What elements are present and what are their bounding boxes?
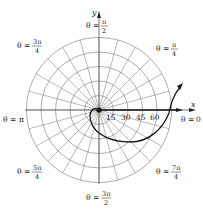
tick-30: 30 [121, 113, 131, 122]
svg-text:0: 0 [196, 115, 201, 124]
grid-spoke [99, 91, 169, 110]
tick-60: 60 [150, 113, 160, 122]
svg-text:5π: 5π [33, 164, 42, 172]
svg-text:θ =: θ = [17, 41, 30, 50]
svg-text:2: 2 [104, 199, 108, 207]
grid-spoke [63, 47, 99, 110]
svg-text:θ =: θ = [86, 193, 99, 202]
svg-text:π: π [172, 41, 177, 49]
grid-spoke [29, 110, 99, 129]
grid-spoke [36, 74, 99, 110]
svg-text:2: 2 [102, 27, 106, 35]
grid-spoke [80, 40, 99, 110]
svg-text:4: 4 [35, 47, 39, 55]
svg-text:θ =: θ = [86, 21, 99, 30]
svg-text:4: 4 [174, 173, 178, 181]
svg-text:θ =: θ = [156, 167, 169, 176]
tick-15: 15 [106, 113, 116, 122]
grid-spoke [99, 40, 118, 110]
svg-text:π: π [19, 115, 24, 124]
grid-spoke [48, 59, 99, 110]
svg-text:θ =: θ = [3, 115, 16, 124]
grid-spoke [99, 59, 150, 110]
svg-text:θ =: θ = [156, 44, 169, 53]
grid-spoke [99, 47, 135, 110]
grid-spoke [80, 110, 99, 180]
grid-spoke [29, 91, 99, 110]
angle-label-pi-over-2: θ = π 2 [86, 18, 108, 35]
svg-text:4: 4 [172, 50, 176, 58]
angle-label-3pi-over-2: θ = 3π 2 [86, 190, 111, 207]
angle-label-5pi-over-4: θ = 5π 4 [17, 164, 42, 181]
svg-text:7π: 7π [172, 164, 181, 172]
polar-coordinate-figure: y x 15 30 45 60 θ = 0 [0, 0, 203, 209]
angle-label-3pi-over-4: θ = 3π 4 [17, 38, 42, 55]
x-axis-label: x [191, 100, 196, 109]
radial-tick-labels: 15 30 45 60 [106, 113, 160, 122]
grid-spoke [63, 110, 99, 173]
grid-spoke [48, 110, 99, 161]
angle-label-pi-over-4: θ = π 4 [156, 41, 178, 58]
svg-text:3π: 3π [33, 38, 42, 46]
angle-label-0: θ = 0 [181, 115, 201, 124]
angle-label-pi: θ = π [3, 115, 24, 124]
tick-45: 45 [136, 113, 146, 122]
y-axis-label: y [91, 8, 97, 17]
y-axis-arrow-icon [97, 11, 101, 18]
ray-arrow-icon [176, 108, 183, 112]
grid-spoke [99, 74, 162, 110]
svg-text:3π: 3π [102, 190, 111, 198]
angle-label-7pi-over-4: θ = 7π 4 [156, 164, 181, 181]
origin-point [96, 107, 101, 112]
svg-text:4: 4 [35, 173, 39, 181]
svg-text:π: π [102, 18, 107, 26]
svg-text:θ =: θ = [17, 167, 30, 176]
svg-text:θ =: θ = [181, 115, 194, 124]
